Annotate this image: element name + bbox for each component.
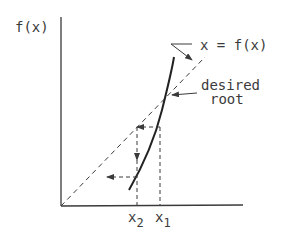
- function-curve: [129, 57, 174, 190]
- fixed-point-iteration-diagram: f(x) x = f(x) desired root x2 x1: [0, 0, 298, 236]
- x2-label: x2: [128, 209, 144, 230]
- root-label-line2: root: [210, 91, 244, 107]
- line-label: x = f(x): [200, 37, 267, 53]
- x-axis: [61, 205, 243, 206]
- root-pointer: [172, 93, 197, 95]
- x1-label: x1: [155, 209, 171, 230]
- y-axis-label: f(x): [15, 19, 49, 35]
